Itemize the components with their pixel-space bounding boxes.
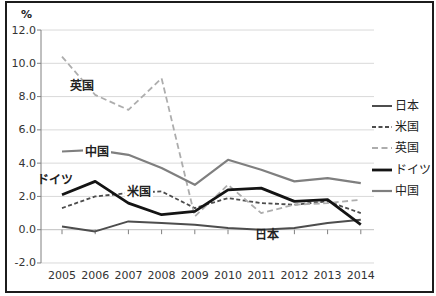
- legend-item-japan: 日本: [372, 95, 431, 116]
- y-tick-label-2.0: 2.0: [6, 190, 36, 203]
- y-tick-label-12.0: 12.0: [6, 24, 36, 37]
- series-line-uk: [62, 57, 361, 217]
- series-label-germany: ドイツ: [37, 174, 73, 186]
- series-label-us: 米国: [125, 186, 153, 198]
- legend-line-sample-china: [372, 188, 392, 194]
- y-axis-unit-label: %: [21, 8, 32, 21]
- legend-line-sample-japan: [372, 103, 392, 109]
- legend-item-china: 中国: [372, 180, 431, 201]
- x-tick-label-2014: 2014: [347, 269, 375, 282]
- series-label-uk: 英国: [70, 80, 94, 92]
- y-tick-label-0.0: 0.0: [6, 223, 36, 236]
- legend-label-japan: 日本: [395, 100, 419, 112]
- legend-item-us: 米国: [372, 116, 431, 137]
- y-tick-label-10.0: 10.0: [6, 57, 36, 70]
- legend-line-sample-us: [372, 124, 392, 130]
- y-tick-label--2.0: -2.0: [6, 256, 36, 269]
- chart-legend: 日本 米国 英国 ドイツ 中国: [372, 95, 431, 201]
- legend-line-sample-uk: [372, 145, 392, 151]
- x-tick-label-2009: 2009: [181, 269, 209, 282]
- series-label-china: 中国: [83, 146, 111, 158]
- x-tick-label-2006: 2006: [81, 269, 109, 282]
- line-chart-figure: % 12.010.08.06.04.02.00.0-2.0 2005200620…: [0, 0, 436, 296]
- x-tick-label-2011: 2011: [247, 269, 275, 282]
- legend-item-uk: 英国: [372, 138, 431, 159]
- legend-label-uk: 英国: [395, 142, 419, 154]
- y-tick-label-8.0: 8.0: [6, 90, 36, 103]
- legend-label-us: 米国: [395, 121, 419, 133]
- x-tick-label-2007: 2007: [114, 269, 142, 282]
- legend-label-germany: ドイツ: [395, 164, 431, 176]
- y-tick-label-4.0: 4.0: [6, 157, 36, 170]
- x-tick-label-2012: 2012: [280, 269, 308, 282]
- series-label-japan: 日本: [255, 229, 279, 241]
- legend-item-germany: ドイツ: [372, 159, 431, 180]
- legend-line-sample-germany: [372, 167, 392, 173]
- legend-label-china: 中国: [395, 185, 419, 197]
- chart-plot-area: [0, 0, 436, 296]
- x-tick-label-2005: 2005: [48, 269, 76, 282]
- x-tick-label-2013: 2013: [314, 269, 342, 282]
- x-tick-label-2010: 2010: [214, 269, 242, 282]
- y-tick-label-6.0: 6.0: [6, 123, 36, 136]
- x-tick-label-2008: 2008: [148, 269, 176, 282]
